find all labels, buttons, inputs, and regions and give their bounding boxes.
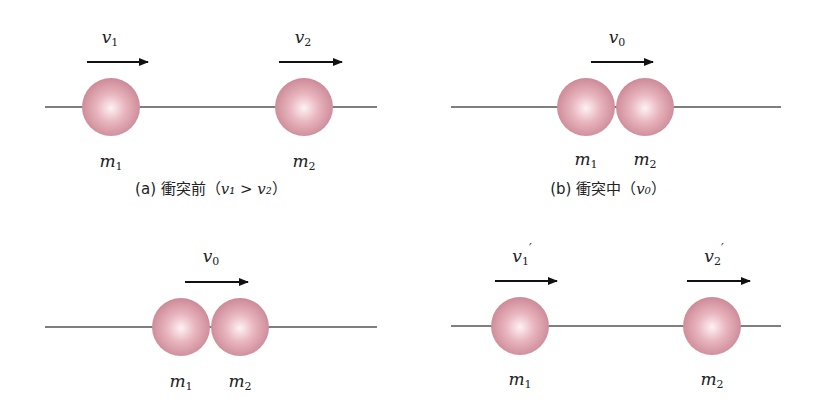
caption-a: (a) 衝突前（v₁ > v₂） bbox=[135, 180, 287, 198]
ball-m2 bbox=[616, 78, 674, 136]
ball-m1 bbox=[82, 78, 140, 136]
mass-label-m1: m1 bbox=[99, 151, 122, 173]
velocity-label-v2-prime: v2′ bbox=[704, 242, 724, 268]
ball-m1 bbox=[491, 297, 549, 355]
mass-label-m1: m1 bbox=[169, 371, 192, 393]
panel-c: m1m2v0 bbox=[45, 246, 377, 393]
ball-m1 bbox=[152, 298, 210, 356]
panel-a: m1m2v1v2(a) 衝突前（v₁ > v₂） bbox=[45, 27, 377, 198]
velocity-label-v1-prime: v1′ bbox=[512, 242, 532, 268]
mass-label-m1: m1 bbox=[574, 149, 597, 171]
mass-label-m1: m1 bbox=[508, 369, 531, 391]
ball-m2 bbox=[683, 297, 741, 355]
mass-label-m2: m2 bbox=[700, 369, 723, 391]
panel-b: m1m2v0(b) 衝突中（v₀） bbox=[451, 27, 781, 198]
collision-diagram: m1m2v1v2(a) 衝突前（v₁ > v₂）m1m2v0(b) 衝突中（v₀… bbox=[0, 0, 815, 406]
velocity-label-v0: v0 bbox=[609, 27, 626, 49]
ball-m1 bbox=[557, 78, 615, 136]
mass-label-m2: m2 bbox=[228, 371, 251, 393]
ball-m2 bbox=[275, 78, 333, 136]
panel-d: m1m2v1′v2′ bbox=[451, 242, 781, 391]
velocity-label-v1: v1 bbox=[102, 27, 119, 49]
caption-b: (b) 衝突中（v₀） bbox=[550, 180, 666, 198]
velocity-label-v2: v2 bbox=[295, 27, 312, 49]
mass-label-m2: m2 bbox=[292, 151, 315, 173]
velocity-label-v0: v0 bbox=[203, 246, 220, 268]
mass-label-m2: m2 bbox=[633, 149, 656, 171]
ball-m2 bbox=[211, 298, 269, 356]
